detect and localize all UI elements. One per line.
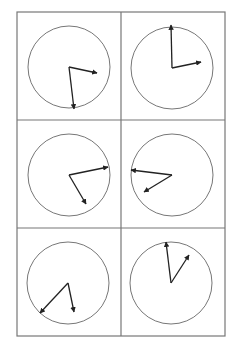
clock-hand-arrow-icon: [166, 242, 171, 283]
grid-frame: [17, 12, 225, 336]
clock-grid-diagram: [0, 0, 233, 348]
clock-3: [28, 134, 110, 216]
clock-2: [131, 25, 213, 109]
clock-hand-arrow-icon: [171, 255, 189, 283]
clock-faces: [27, 25, 213, 324]
clock-hand-arrow-icon: [172, 62, 201, 68]
clock-5: [27, 242, 109, 324]
clock-hand-arrow-icon: [131, 170, 172, 175]
clock-hand-arrow-icon: [69, 67, 97, 73]
clock-1: [28, 26, 110, 109]
clock-6: [130, 242, 212, 324]
clock-4: [131, 134, 213, 216]
clock-hand-arrow-icon: [40, 283, 68, 313]
clock-hand-arrow-icon: [171, 25, 172, 68]
clock-hand-arrow-icon: [69, 67, 74, 109]
clock-hand-arrow-icon: [68, 283, 74, 312]
clock-hand-arrow-icon: [144, 175, 172, 192]
clock-hand-arrow-icon: [69, 167, 108, 175]
clock-hand-arrow-icon: [69, 175, 86, 204]
